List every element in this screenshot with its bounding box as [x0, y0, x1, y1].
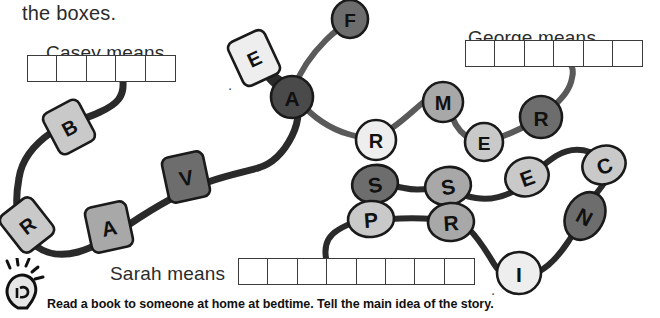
bead-a-george: A — [271, 76, 313, 118]
answer-cell[interactable] — [612, 40, 643, 67]
answer-cell[interactable] — [583, 40, 614, 67]
bead-f-george: F — [332, 0, 368, 38]
answer-cell[interactable] — [86, 55, 117, 82]
answer-cell[interactable] — [115, 55, 146, 82]
answer-cell[interactable] — [267, 258, 298, 285]
bead-r2-george: R — [520, 96, 562, 138]
bead-c-sarah: C — [576, 139, 631, 191]
answer-cell[interactable] — [238, 258, 269, 285]
trailing-period-sarah: . — [491, 281, 495, 298]
answer-boxes-sarah[interactable] — [238, 258, 475, 285]
answer-boxes-george[interactable] — [465, 40, 643, 67]
bead-n-sarah: N — [556, 185, 613, 247]
answer-cell[interactable] — [27, 55, 58, 82]
bead-letter: F — [344, 10, 356, 31]
answer-cell[interactable] — [553, 40, 584, 67]
trailing-period-casey: . — [228, 76, 232, 93]
bead-a-casey: A — [84, 200, 135, 254]
e2-to-s2-string — [464, 192, 512, 199]
bead-i-sarah: I — [497, 252, 541, 294]
answer-cell[interactable] — [356, 258, 387, 285]
answer-cell[interactable] — [444, 258, 475, 285]
bead-v-casey: V — [161, 150, 212, 204]
bead-s2-sarah: S — [422, 163, 474, 208]
bead-letter: A — [284, 87, 299, 110]
bead-r-casey: R — [0, 195, 57, 256]
bead-r3-sarah: R — [427, 201, 476, 242]
bead-e-george: E — [465, 123, 503, 161]
bead-letter: P — [363, 208, 379, 232]
answer-cell[interactable] — [494, 40, 525, 67]
answer-cell[interactable] — [145, 55, 176, 82]
bead-m-george: M — [423, 82, 463, 122]
bead-letter: R — [369, 130, 384, 152]
answer-cell[interactable] — [524, 40, 555, 67]
answer-cell[interactable] — [414, 258, 445, 285]
answer-boxes-casey[interactable] — [27, 55, 176, 82]
answer-cell[interactable] — [56, 55, 87, 82]
bead-letter: E — [478, 133, 491, 154]
bead-b-casey: B — [41, 97, 98, 156]
bead-letter: R — [533, 107, 548, 130]
worksheet-canvas: EBRAVAFRMERCESSPRNI the boxes. Casey mea… — [0, 0, 660, 318]
lightbulb-icon — [2, 258, 50, 314]
footer-instruction: Read a book to someone at home at bedtim… — [47, 297, 494, 311]
answer-cell[interactable] — [385, 258, 416, 285]
answer-cell[interactable] — [465, 40, 496, 67]
prompt-text: the boxes. — [22, 2, 116, 25]
answer-cell[interactable] — [297, 258, 328, 285]
answer-label-sarah: Sarah means — [110, 263, 225, 285]
bead-letter: I — [516, 263, 522, 286]
answer-cell[interactable] — [326, 258, 357, 285]
bead-p-sarah: P — [347, 199, 395, 238]
bead-r-george: R — [356, 120, 396, 160]
r2-to-box-string — [554, 64, 573, 106]
bead-letter: R — [443, 211, 460, 235]
bead-letter: M — [435, 92, 452, 114]
